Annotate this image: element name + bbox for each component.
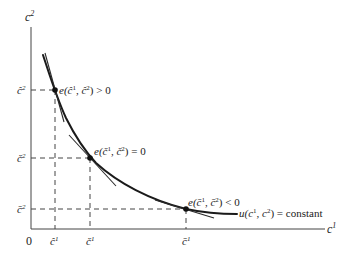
bar-x-tick-label: c̄1 xyxy=(182,235,190,247)
hat-x-tick-label: ĉ1 xyxy=(50,235,58,247)
check-x-tick-label: č1 xyxy=(86,235,94,247)
indifference-curve-diagram: c2 c1 0 xyxy=(0,0,345,257)
hat-point-label: e(ĉ1, ĉ2) > 0 xyxy=(59,84,111,97)
curve-label: u(c1, c2) = constant xyxy=(239,207,322,220)
indifference-curve xyxy=(43,55,237,214)
check-point-marker xyxy=(87,155,93,161)
hat-point-marker xyxy=(52,87,58,93)
x-axis-label: c1 xyxy=(327,221,336,236)
check-point-label: e(č1, č2) = 0 xyxy=(94,145,146,158)
check-y-tick-label: č2 xyxy=(17,152,26,164)
origin-label: 0 xyxy=(26,234,32,248)
check-tangent-line xyxy=(69,135,116,186)
hat-y-tick-label: ĉ2 xyxy=(17,84,26,96)
guide-lines xyxy=(31,90,186,229)
bar-y-tick-label: c̄2 xyxy=(17,203,26,215)
tangent-lines xyxy=(45,53,214,218)
bar-point-label: e(c̄1, c̄2) < 0 xyxy=(188,196,240,209)
y-axis-label: c2 xyxy=(25,9,34,24)
